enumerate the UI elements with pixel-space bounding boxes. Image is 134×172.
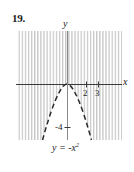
- y-axis-label: y: [63, 19, 67, 29]
- curve-equation-exponent: 2: [76, 142, 79, 148]
- x-tick-label-3: 3: [95, 89, 100, 98]
- y-tick-label-neg4: -4: [55, 123, 63, 132]
- curve-equation-base: y = -x: [52, 142, 76, 153]
- figure-root: 19. y x: [0, 0, 134, 172]
- x-tick-label-2: 2: [83, 89, 88, 98]
- shaded-region-hatch: [17, 31, 122, 140]
- curve-equation-label: y = -x2: [52, 142, 79, 153]
- x-axis-label: x: [123, 77, 127, 87]
